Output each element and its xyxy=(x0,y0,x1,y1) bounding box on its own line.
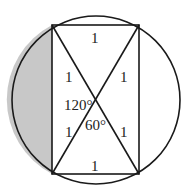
label-lower-left: 1 xyxy=(65,124,73,140)
label-top-side: 1 xyxy=(91,30,99,46)
label-bottom-side: 1 xyxy=(91,158,99,174)
label-lower-right: 1 xyxy=(120,124,128,140)
label-upper-right: 1 xyxy=(120,69,128,85)
label-angle-120: 120° xyxy=(64,97,93,113)
inscribed-rectangle-diagram: 1 1 1 1 1 1 120° 60° xyxy=(0,0,188,196)
label-upper-left: 1 xyxy=(65,69,73,85)
label-angle-60: 60° xyxy=(85,117,106,133)
